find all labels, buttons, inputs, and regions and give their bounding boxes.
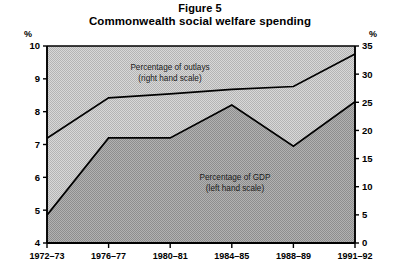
- svg-text:30: 30: [362, 69, 373, 80]
- svg-text:8: 8: [35, 106, 40, 117]
- svg-text:1972–73: 1972–73: [29, 251, 64, 261]
- svg-text:6: 6: [35, 172, 40, 183]
- svg-text:20: 20: [362, 125, 373, 136]
- svg-text:10: 10: [29, 40, 40, 51]
- annotation-gdp-line2: (left hand scale): [206, 184, 265, 193]
- svg-text:9: 9: [35, 73, 40, 84]
- annotation-gdp-line1: Percentage of GDP: [200, 173, 272, 182]
- svg-text:5: 5: [35, 205, 41, 216]
- svg-text:0: 0: [362, 237, 367, 248]
- svg-text:1984–85: 1984–85: [214, 251, 249, 261]
- svg-text:1976–77: 1976–77: [91, 251, 126, 261]
- svg-text:25: 25: [362, 97, 373, 108]
- svg-text:1980–81: 1980–81: [153, 251, 188, 261]
- annotation-outlays-line2: (right hand scale): [138, 74, 202, 83]
- svg-text:10: 10: [362, 181, 373, 192]
- svg-text:4: 4: [35, 237, 41, 248]
- annotation-outlays-line1: Percentage of outlays: [130, 63, 209, 72]
- svg-text:5: 5: [362, 209, 368, 220]
- svg-text:1988–89: 1988–89: [276, 251, 311, 261]
- plot-area: 45678910 05101520253035 1972–731976–7719…: [0, 0, 400, 276]
- x-axis-ticks: 1972–731976–771980–811984–851988–891991–…: [29, 243, 372, 261]
- left-axis-ticks: 45678910: [29, 40, 47, 248]
- right-axis-ticks: 05101520253035: [355, 40, 373, 248]
- svg-text:7: 7: [35, 139, 40, 150]
- svg-text:15: 15: [362, 153, 373, 164]
- svg-text:1991–92: 1991–92: [337, 251, 372, 261]
- figure-footnote: [28, 268, 388, 276]
- figure-container: Figure 5 Commonwealth social welfare spe…: [0, 0, 400, 276]
- svg-text:35: 35: [362, 40, 373, 51]
